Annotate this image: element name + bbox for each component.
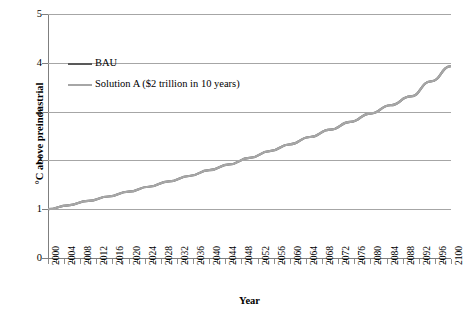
x-tick-label-2036: 2036 <box>197 246 207 265</box>
x-tick-label-2072: 2072 <box>342 246 352 265</box>
x-tick-label-2092: 2092 <box>423 246 433 265</box>
x-tick-label-2016: 2016 <box>116 246 126 265</box>
x-tick-label-2080: 2080 <box>374 246 384 265</box>
x-tick-label-2064: 2064 <box>310 246 320 265</box>
gridline-y-2 <box>48 160 451 161</box>
gridline-y-5 <box>48 14 451 15</box>
y-tick-label-5: 5 <box>24 9 42 20</box>
x-tick-label-2044: 2044 <box>229 246 239 265</box>
legend-item-bau: BAU <box>68 53 328 74</box>
x-tick-label-2068: 2068 <box>326 246 336 265</box>
x-axis-title: Year <box>48 295 451 306</box>
x-tick-label-2032: 2032 <box>181 246 191 265</box>
y-axis-tick-labels: 012345 <box>22 0 42 315</box>
x-tick-label-2056: 2056 <box>278 246 288 265</box>
y-tick-label-0: 0 <box>24 253 42 264</box>
y-tick-label-3: 3 <box>24 107 42 118</box>
gridline-y-1 <box>48 209 451 210</box>
x-tick-label-2020: 2020 <box>133 246 143 265</box>
x-tick-label-2024: 2024 <box>149 246 159 265</box>
legend-label-solution-a: Solution A ($2 trillion in 10 years) <box>95 79 240 90</box>
x-tick-label-2060: 2060 <box>294 246 304 265</box>
x-tick-label-2048: 2048 <box>245 246 255 265</box>
x-tick-label-2052: 2052 <box>262 246 272 265</box>
x-tick-label-2012: 2012 <box>100 246 110 265</box>
series-lines <box>48 14 451 258</box>
x-tick-label-2084: 2084 <box>391 246 401 265</box>
y-tick-label-4: 4 <box>24 58 42 69</box>
plot-area <box>48 14 451 258</box>
x-tick-label-2000: 2000 <box>52 246 62 265</box>
y-tick-label-1: 1 <box>24 204 42 215</box>
legend-label-bau: BAU <box>95 58 117 69</box>
chart-legend: BAU Solution A ($2 trillion in 10 years) <box>68 53 328 95</box>
y-tick-label-2: 2 <box>24 155 42 166</box>
x-tickmark-2100 <box>451 259 452 264</box>
x-tick-label-2008: 2008 <box>84 246 94 265</box>
x-tick-label-2040: 2040 <box>213 246 223 265</box>
x-tick-label-2100: 2100 <box>455 246 465 265</box>
legend-swatch-solution-a <box>68 84 92 86</box>
x-tick-label-2076: 2076 <box>358 246 368 265</box>
gridline-y-3 <box>48 112 451 113</box>
x-tick-label-2028: 2028 <box>165 246 175 265</box>
chart-container: °C above preindustrial 012345 2000200420… <box>0 0 465 315</box>
legend-item-solution-a: Solution A ($2 trillion in 10 years) <box>68 74 328 95</box>
legend-swatch-bau <box>68 63 92 65</box>
x-tick-label-2088: 2088 <box>407 246 417 265</box>
x-tick-label-2096: 2096 <box>439 246 449 265</box>
x-tick-label-2004: 2004 <box>68 246 78 265</box>
